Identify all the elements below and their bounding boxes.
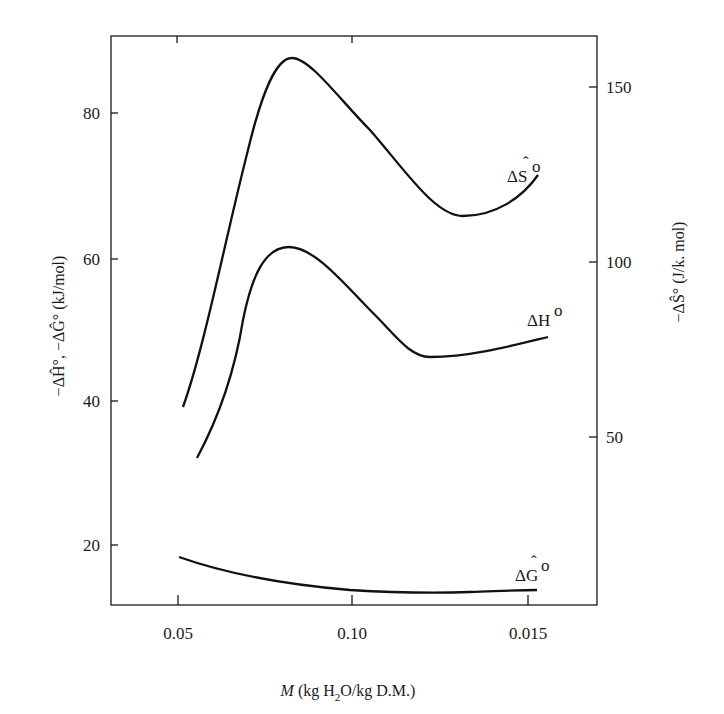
y-left-tick-label: 80 (83, 104, 100, 123)
svg-text:ˆ: ˆ (531, 552, 537, 571)
curve-delta-g (179, 557, 537, 593)
plot-frame (111, 36, 597, 605)
y-left-tick-label: 40 (83, 392, 100, 411)
y-right-axis-title: −ΔŜ° (J/k. mol) (669, 222, 688, 323)
svg-text:o: o (554, 301, 563, 320)
label-delta-h: ΔH o (527, 301, 563, 330)
svg-text:ΔH: ΔH (527, 311, 550, 330)
y-right-tick-label: 50 (606, 428, 623, 447)
y-right-tick-label: 150 (606, 78, 632, 97)
thermodynamic-chart: 0.05 0.10 0.015 20 40 60 80 50 100 150 M… (0, 0, 724, 714)
y-right-axis-ticks (589, 87, 597, 437)
y-left-axis-title: −ΔĤ°, −ΔĜ° (kJ/mol) (49, 256, 68, 397)
label-delta-s: ΔS ˆ o (507, 153, 541, 186)
label-delta-g: ΔG ˆ o (515, 552, 550, 585)
x-axis-ticks (177, 36, 528, 605)
svg-text:o: o (532, 157, 541, 176)
x-axis-title: M (kg H2O/kg D.M.) (280, 682, 416, 703)
x-tick-label: 0.015 (509, 624, 547, 643)
curve-delta-h (197, 247, 548, 458)
svg-text:ˆ: ˆ (523, 153, 529, 172)
y-left-tick-label: 60 (83, 250, 100, 269)
y-left-axis-ticks (111, 113, 118, 545)
x-tick-label: 0.05 (163, 624, 193, 643)
y-right-tick-label: 100 (606, 253, 632, 272)
y-left-tick-label: 20 (83, 536, 100, 555)
x-tick-label: 0.10 (337, 624, 367, 643)
svg-text:o: o (541, 556, 550, 575)
